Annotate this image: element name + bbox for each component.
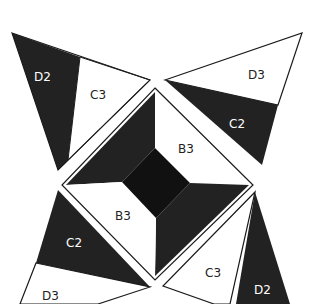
label-c3-top-left: C3	[90, 88, 106, 102]
label-d3-top-right: D3	[248, 68, 265, 82]
label-b3-bottom-left: B3	[115, 209, 131, 223]
label-c2-bottom-left: C2	[66, 236, 82, 250]
quilt-diagram: D2 C3 D3 C2 B3 B3 C2 D3 C3 D2	[0, 0, 318, 304]
label-c3-bottom-right: C3	[205, 266, 221, 280]
label-b3-top-right: B3	[178, 142, 194, 156]
label-d2-top-left: D2	[34, 70, 51, 84]
label-c2-top-right: C2	[229, 117, 245, 131]
label-d2-bottom-right: D2	[254, 283, 271, 297]
label-d3-bottom-left: D3	[42, 289, 59, 303]
